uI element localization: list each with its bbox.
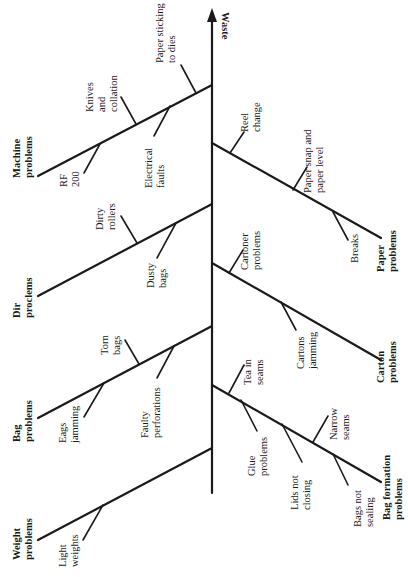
svg-text:Narrowseams: Narrowseams bbox=[328, 408, 351, 440]
category-weight-problems: Weightproblems Lightweights bbox=[11, 448, 212, 567]
category-dirt-problems: Dirproclems Dirtyrollers Dustybags bbox=[11, 203, 212, 318]
category-carton-problems: Cartonproblems Cartonerproblems Cartonsj… bbox=[212, 231, 398, 383]
svg-text:Eagsjamming: Eagsjamming bbox=[57, 405, 80, 444]
svg-text:Lids notclosing: Lids notclosing bbox=[289, 475, 312, 510]
svg-text:RF200: RF200 bbox=[58, 171, 81, 187]
svg-text:Bags notsealing: Bags notsealing bbox=[352, 490, 375, 527]
svg-text:Weightproblems: Weightproblems bbox=[11, 518, 34, 560]
svg-text:Breaks: Breaks bbox=[349, 234, 360, 263]
svg-text:Tea inseams: Tea inseams bbox=[242, 358, 265, 385]
svg-text:Bag formationproblems: Bag formationproblems bbox=[381, 455, 404, 520]
svg-text:Cartonsjamming: Cartonsjamming bbox=[295, 331, 318, 370]
fishbone-diagram: Waste Machineproblems Paper stickingto d… bbox=[0, 0, 408, 577]
svg-text:Dustybags: Dustybags bbox=[145, 262, 168, 288]
svg-text:Electricalfaults: Electricalfaults bbox=[143, 148, 166, 188]
svg-text:Cartonproblems: Cartonproblems bbox=[375, 341, 398, 383]
svg-text:Reelchange: Reelchange bbox=[239, 102, 262, 132]
svg-text:Dirtyrollers: Dirtyrollers bbox=[94, 203, 117, 230]
arrow-head-icon bbox=[207, 8, 217, 22]
svg-text:Dirproclems: Dirproclems bbox=[11, 277, 34, 318]
svg-text:Glueproblems: Glueproblems bbox=[246, 437, 269, 476]
svg-text:Tornbags: Tornbags bbox=[99, 335, 122, 355]
category-machine-problems: Machineproblems Paper stickingto dies Kn… bbox=[11, 2, 212, 188]
svg-text:Paper stickingto dies: Paper stickingto dies bbox=[154, 2, 177, 63]
svg-text:Cartonerproblems: Cartonerproblems bbox=[239, 231, 262, 270]
effect-label: Waste bbox=[220, 12, 231, 40]
category-bag-problems: Bagproblems Tornbags Faultyperforations … bbox=[11, 326, 212, 444]
svg-text:Machineproblems: Machineproblems bbox=[11, 136, 34, 178]
svg-text:Bagproblems: Bagproblems bbox=[11, 400, 34, 442]
svg-text:Faultyperforations: Faultyperforations bbox=[139, 387, 162, 438]
svg-text:Paper snap andpaper level: Paper snap andpaper level bbox=[302, 129, 325, 193]
svg-text:Lightweights: Lightweights bbox=[57, 534, 80, 567]
svg-text:Knivesandcollation: Knivesandcollation bbox=[84, 75, 119, 112]
